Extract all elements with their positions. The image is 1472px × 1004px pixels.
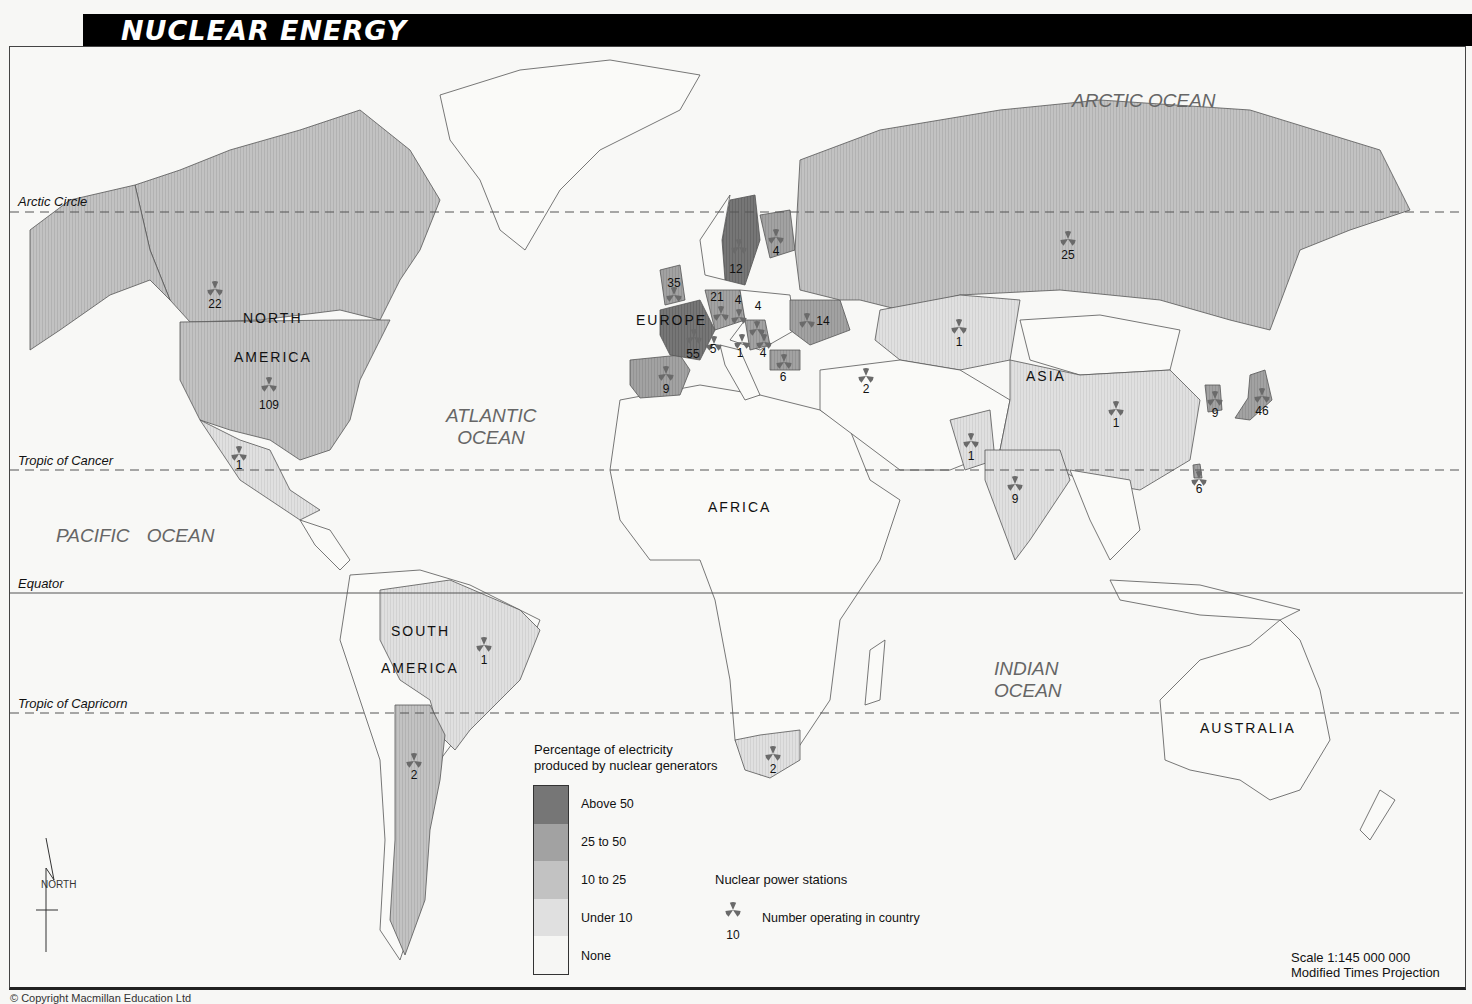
station-count-taiwan: 6 (1184, 482, 1214, 496)
station-count-pakistan: 1 (956, 449, 986, 463)
station-count-argentina: 2 (399, 768, 429, 782)
compass-arrow-icon (36, 838, 58, 952)
latitude-label-arctic-circle: Arctic Circle (18, 194, 87, 209)
station-count-bulgaria: 6 (768, 370, 798, 384)
legend-stations-example-count: 10 (718, 928, 748, 942)
station-count-kazakhstan: 1 (944, 335, 974, 349)
nuclear-trefoil-icon (724, 901, 742, 919)
copyright-notice: © Copyright Macmillan Education Ltd (10, 992, 191, 1004)
latitude-label-equator: Equator (18, 576, 64, 591)
continent-label-north-america-line2: AMERICA (234, 349, 312, 365)
legend-title-line2: produced by nuclear generators (534, 758, 718, 774)
ocean-label-atlantic: ATLANTIC OCEAN (446, 405, 536, 449)
latitude-label-tropic-of-cancer: Tropic of Cancer (18, 453, 113, 468)
ocean-label-atlantic-line1: ATLANTIC (446, 405, 536, 427)
legend-swatch-none (534, 936, 568, 974)
latitude-label-tropic-of-capricorn: Tropic of Capricorn (18, 696, 128, 711)
compass-north-label: NORTH (41, 880, 51, 890)
station-count-south-korea: 9 (1200, 406, 1230, 420)
station-count-india: 9 (1000, 492, 1030, 506)
station-count-canada: 22 (200, 297, 230, 311)
legend-label-25-to-50: 25 to 50 (581, 835, 626, 849)
station-count-brazil: 1 (469, 653, 499, 667)
station-count-spain: 9 (651, 382, 681, 396)
ocean-label-pacific: PACIFIC OCEAN (56, 525, 214, 547)
station-count-switzerland: 5 (698, 342, 728, 356)
ocean-label-indian: INDIAN OCEAN (994, 658, 1062, 702)
legend-swatch-under-10 (534, 899, 568, 937)
station-count-russia: 25 (1053, 248, 1083, 262)
station-count-china: 1 (1101, 416, 1131, 430)
station-count-hungary: 4 (748, 346, 778, 360)
legend-label-above-50: Above 50 (581, 797, 634, 811)
continent-label-asia: ASIA (1026, 368, 1066, 384)
station-count-armenia: 2 (851, 382, 881, 396)
continent-label-south-america-line2: AMERICA (381, 660, 459, 676)
legend-swatch-10-to-25 (534, 861, 568, 899)
legend-swatch-above-50 (534, 786, 568, 824)
legend-label-10-to-25: 10 to 25 (581, 873, 626, 887)
map-scale: Scale 1:145 000 000 (1291, 950, 1440, 965)
legend-swatch-25-to-50 (534, 824, 568, 862)
ocean-label-arctic: ARCTIC OCEAN (1072, 90, 1216, 112)
legend-label-none: None (581, 949, 611, 963)
ocean-label-atlantic-line2: OCEAN (446, 427, 536, 449)
station-count-ukraine: 14 (808, 314, 838, 328)
station-count-slovakia: 4 (743, 299, 773, 313)
legend-color-scale (533, 785, 569, 975)
station-count-japan: 46 (1247, 404, 1277, 418)
station-count-sweden: 12 (721, 262, 751, 276)
ocean-label-indian-line2: OCEAN (994, 680, 1062, 702)
ocean-label-indian-line1: INDIAN (994, 658, 1062, 680)
continent-label-africa: AFRICA (708, 499, 771, 515)
continent-label-australia: AUSTRALIA (1200, 720, 1296, 736)
station-count-usa: 109 (254, 398, 284, 412)
map-projection: Modified Times Projection (1291, 965, 1440, 980)
station-count-uk: 35 (659, 276, 689, 290)
station-count-south-africa: 2 (758, 762, 788, 776)
legend-stations-description: Number operating in country (762, 911, 920, 925)
station-count-mexico: 1 (224, 458, 254, 472)
legend-title: Percentage of electricity produced by nu… (534, 742, 718, 774)
legend-label-under-10: Under 10 (581, 911, 632, 925)
station-count-finland: 4 (761, 244, 791, 258)
continent-label-north-america-line1: NORTH (243, 310, 303, 326)
continent-label-europe: EUROPE (636, 312, 707, 328)
legend-stations-title: Nuclear power stations (715, 872, 847, 888)
scale-info: Scale 1:145 000 000 Modified Times Proje… (1291, 950, 1440, 980)
legend-title-line1: Percentage of electricity (534, 742, 718, 758)
continent-label-south-america-line1: SOUTH (391, 623, 450, 639)
